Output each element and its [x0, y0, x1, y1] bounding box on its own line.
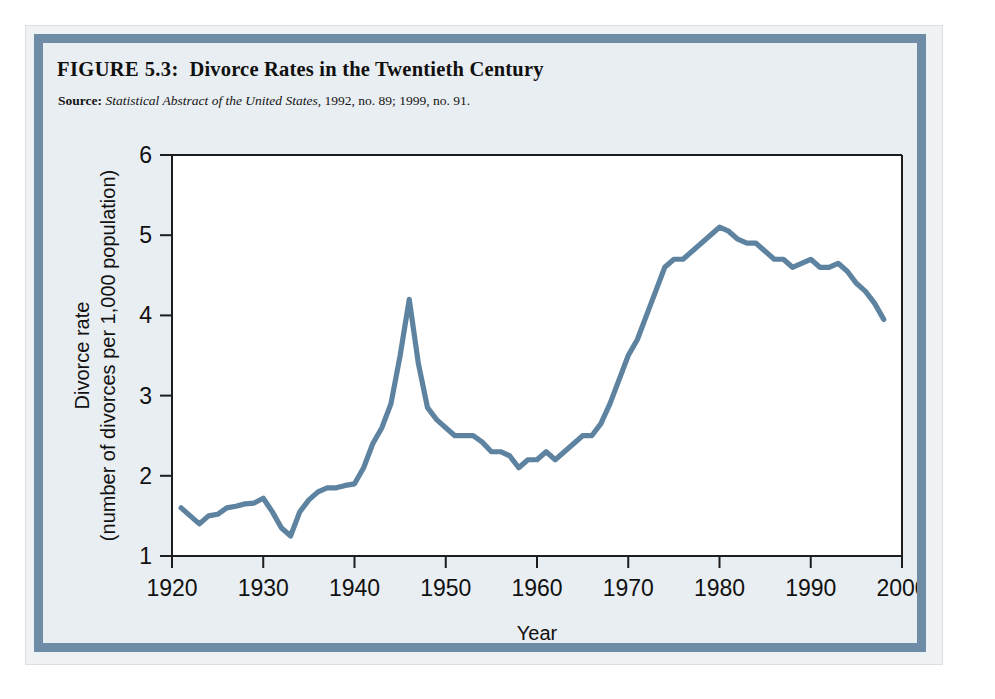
source-publication: Statistical Abstract of the United State…	[105, 93, 321, 108]
y-tick-label-6: 6	[139, 142, 152, 168]
y-tick-label-5: 5	[139, 222, 152, 248]
x-axis-title: Year	[517, 622, 558, 643]
y-tick-label-3: 3	[139, 383, 152, 409]
figure-number: FIGURE 5.3:	[57, 58, 179, 80]
chart-area: 123456 192019301940195019601970198019902…	[43, 120, 917, 643]
y-axis-title-line2: (number of divorces per 1,000 population…	[97, 170, 119, 541]
figure-title: FIGURE 5.3: Divorce Rates in the Twentie…	[57, 58, 544, 81]
y-tick-label-1: 1	[139, 543, 152, 569]
figure-source-line: Source: Statistical Abstract of the Unit…	[58, 93, 470, 109]
x-tick-label-1950: 1950	[420, 575, 471, 601]
x-tick-label-1940: 1940	[329, 575, 380, 601]
source-label: Source:	[58, 93, 102, 108]
x-tick-label-2000: 2000	[876, 575, 917, 601]
y-tick-label-4: 4	[139, 302, 152, 328]
source-details: 1992, no. 89; 1999, no. 91.	[321, 93, 470, 108]
y-axis-title-line1: Divorce rate	[71, 302, 93, 410]
page-canvas: FIGURE 5.3: Divorce Rates in the Twentie…	[0, 0, 995, 699]
y-tick-label-2: 2	[139, 463, 152, 489]
divorce-rate-line-chart: 123456 192019301940195019601970198019902…	[43, 120, 917, 643]
x-tick-label-1990: 1990	[785, 575, 836, 601]
x-tick-label-1960: 1960	[511, 575, 562, 601]
figure-title-text: Divorce Rates in the Twentieth Century	[189, 58, 543, 80]
x-tick-label-1970: 1970	[603, 575, 654, 601]
x-tick-label-1920: 1920	[146, 575, 197, 601]
x-axis: 192019301940195019601970198019902000	[146, 556, 917, 601]
plot-background	[172, 155, 902, 556]
x-tick-label-1930: 1930	[238, 575, 289, 601]
x-tick-label-1980: 1980	[694, 575, 745, 601]
